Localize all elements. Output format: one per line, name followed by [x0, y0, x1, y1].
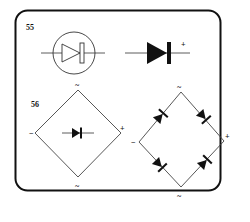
bridge-rectifier-symbol-icon: ~ − + ~: [29, 81, 125, 191]
bridge-circuit-left-label: −: [131, 138, 136, 147]
bridge-symbol-left-label: −: [29, 129, 34, 138]
bridge-rectifier-circuit-icon: ~ − + ~: [131, 83, 230, 201]
figure-55: 55 +: [26, 23, 190, 74]
diode-plus-label: +: [181, 40, 186, 49]
diode-top-left-icon: [152, 109, 168, 125]
figure-56: 56 ~ − + ~: [29, 81, 230, 201]
figure-56-label: 56: [31, 100, 39, 109]
bridge-circuit-right-label: +: [225, 132, 230, 141]
outer-frame: [16, 11, 221, 191]
diode-icon: +: [125, 40, 190, 64]
bridge-symbol-right-label: +: [120, 124, 125, 133]
figure-55-label: 55: [26, 23, 34, 32]
bridge-circuit-top-label: ~: [177, 83, 182, 92]
diagram-canvas: 55 + 56 ~ − + ~: [0, 0, 250, 222]
diode-in-circle-icon: [41, 32, 105, 74]
bridge-circuit-bottom-label: ~: [177, 192, 182, 201]
bridge-symbol-top-label: ~: [75, 81, 80, 90]
